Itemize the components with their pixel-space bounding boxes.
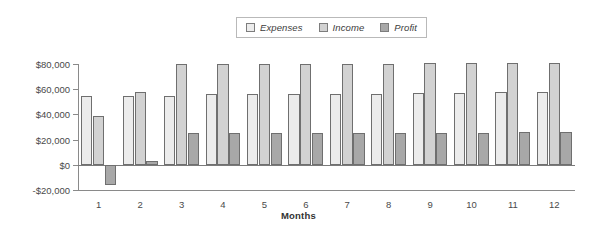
x-axis-label: 8 [386,199,391,210]
plot-area: -$20,000$0$20,000$40,000$60,000$80,00012… [78,64,575,190]
bar-expenses [413,93,424,165]
bar-expenses [247,94,258,165]
bar-expenses [330,94,341,165]
bar-chart: ExpensesIncomeProfit -$20,000$0$20,000$4… [0,0,597,236]
bar-income [424,63,435,164]
bar-income [93,116,104,165]
bar-income [507,63,518,164]
legend-entry-expenses: Expenses [246,22,303,33]
bar-group [413,64,448,190]
x-axis-label: 2 [137,199,142,210]
x-axis-label: 4 [220,199,225,210]
legend-label: Income [333,22,365,33]
y-axis-tick [73,114,78,115]
bar-income [342,64,353,165]
bar-profit [560,132,571,165]
bar-expenses [454,93,465,165]
bar-group [247,64,282,190]
x-axis-label: 1 [96,199,101,210]
legend-swatch-icon [380,23,389,32]
bar-profit [312,133,323,165]
bar-profit [478,133,489,165]
bar-profit [105,165,116,185]
y-axis-label: $20,000 [36,134,70,145]
bar-expenses [537,92,548,164]
legend-label: Profit [394,22,417,33]
bar-expenses [164,96,175,165]
bar-group [123,64,158,190]
bar-expenses [123,96,134,165]
x-axis-label: 11 [508,199,518,210]
bar-group [495,64,530,190]
y-axis-tick [73,165,78,166]
bar-expenses [288,94,299,165]
bar-profit [188,133,199,165]
bar-income [135,92,146,165]
bar-group [454,64,489,190]
x-axis-label: 5 [262,199,267,210]
bar-group [371,64,406,190]
y-axis-label: $80,000 [36,59,70,70]
bar-income [383,64,394,165]
bar-income [176,64,187,165]
bar-income [217,64,228,165]
bar-profit [229,133,240,165]
y-axis-label: -$20,000 [32,185,70,196]
legend-swatch-icon [246,23,255,32]
bar-income [466,63,477,164]
x-axis-line [78,190,575,191]
y-axis-tick [73,140,78,141]
y-axis-label: $40,000 [36,109,70,120]
bar-expenses [371,94,382,165]
bar-income [300,64,311,165]
y-axis-tick [73,89,78,90]
bar-group [537,64,572,190]
x-axis-label: 10 [466,199,477,210]
legend-swatch-icon [319,23,328,32]
legend-entry-income: Income [319,22,365,33]
x-axis-label: 3 [179,199,184,210]
bar-profit [353,133,364,165]
bar-group [164,64,199,190]
bar-profit [436,133,447,165]
bar-profit [271,133,282,165]
bar-group [330,64,365,190]
bar-group [81,64,116,190]
bar-profit [519,132,530,165]
bar-expenses [206,94,217,165]
y-axis-tick [73,190,78,191]
legend-entry-profit: Profit [380,22,417,33]
y-axis-line [78,64,79,190]
bar-expenses [81,96,92,165]
y-axis-label: $0 [59,159,70,170]
bar-group [288,64,323,190]
bar-income [549,63,560,165]
y-axis-tick [73,64,78,65]
legend-label: Expenses [260,22,303,33]
chart-legend: ExpensesIncomeProfit [236,17,427,38]
x-axis-label: 9 [427,199,432,210]
bar-expenses [495,92,506,164]
x-axis-title: Months [0,210,597,221]
bar-profit [146,161,157,165]
x-axis-label: 12 [549,199,560,210]
bar-group [206,64,241,190]
bar-income [259,64,270,165]
y-axis-label: $60,000 [36,84,70,95]
x-axis-label: 7 [345,199,350,210]
x-axis-label: 6 [303,199,308,210]
bar-profit [395,133,406,165]
